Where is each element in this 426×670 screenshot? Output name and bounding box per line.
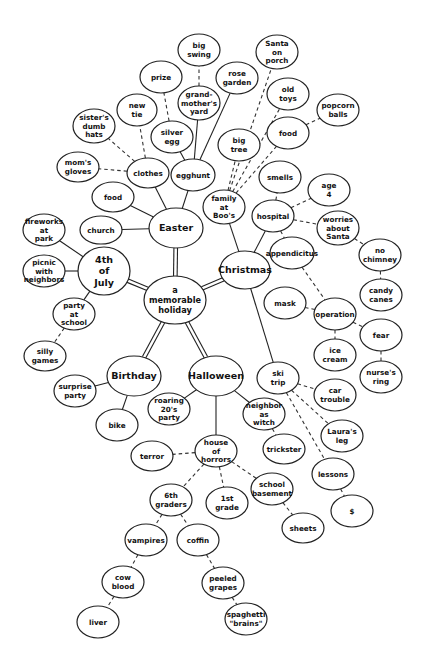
topic-bubbles: amemorableholidayEasterChristmas4thofJul… xyxy=(23,34,402,638)
bubble-terror: terror xyxy=(131,441,173,471)
bubble-house-horrors: houseofhorrors xyxy=(195,435,237,467)
bubble-label: school xyxy=(61,318,87,327)
bubble-label: hats xyxy=(85,130,103,139)
bubble-label: lessons xyxy=(318,470,348,479)
connector-dashed-sixth_graders-vampires xyxy=(155,514,162,525)
bubble-label: Boo's xyxy=(213,211,235,220)
bubble-label: graders xyxy=(155,500,186,509)
bubble-birthday: Birthday xyxy=(107,356,161,396)
bubble-label: Easter xyxy=(159,222,194,233)
bubble-label: terror xyxy=(140,452,164,461)
connector-solid-easter-clothes xyxy=(155,187,166,209)
bubble-egghunt: egghunt xyxy=(171,159,215,191)
bubble-label: memorable xyxy=(149,295,201,305)
bubble-label: basement xyxy=(252,489,293,498)
bubble-label: Birthday xyxy=(111,370,157,381)
bubble-label: egg xyxy=(164,137,179,146)
bubble-roaring20s: roaring20'sparty xyxy=(148,393,190,425)
bubble-label: food xyxy=(104,193,122,202)
bubble-label: cream xyxy=(322,355,347,364)
connector-dashed-coffin-peeled_grapes xyxy=(207,555,215,569)
connector-dashed-hospital-appendicitus xyxy=(281,231,285,238)
bubble-label: canes xyxy=(369,295,392,304)
bubble-label: food xyxy=(279,129,297,138)
connector-solid-christmas-hospital xyxy=(254,231,265,252)
bubble-label: tree xyxy=(231,145,248,154)
connector-dashed-ski_trip-car_trouble xyxy=(298,384,316,389)
connector-double-center-christmas xyxy=(201,278,222,287)
connector-double-center-july4 xyxy=(127,282,147,290)
bubble-label: 4th xyxy=(95,254,113,265)
bubble-big-swing: bigswing xyxy=(178,34,220,66)
bubble-halloween: Halloween xyxy=(188,356,244,396)
connector-solid-easter-egghunt xyxy=(182,191,188,209)
connector-solid-easter-church xyxy=(122,229,149,230)
bubble-worries-santa: worriesaboutSanta xyxy=(317,211,359,245)
connector-dashed-cow_blood-liver xyxy=(107,596,114,607)
bubble-no-chimney: nochimney xyxy=(359,239,401,271)
bubble-label: church xyxy=(87,226,114,235)
connector-dashed-party_school-silly_games xyxy=(54,328,64,342)
bubble-label: ring xyxy=(373,377,389,386)
bubble-liver: liver xyxy=(77,606,119,638)
bubble-first-grade: 1stgrade xyxy=(206,487,248,519)
bubble-label: blood xyxy=(112,582,135,591)
bubble-label: witch xyxy=(253,418,275,427)
bubble-coffin: coffin xyxy=(177,524,219,556)
bubble-food-e: food xyxy=(92,182,134,212)
connector-dashed-family_boos-big_tree xyxy=(228,161,235,191)
bubble-label: Halloween xyxy=(188,370,244,381)
bubble-label: holiday xyxy=(158,305,192,315)
bubble-label: July xyxy=(93,277,115,288)
bubble-label: egghunt xyxy=(176,171,211,180)
bubble-label: trip xyxy=(271,378,286,387)
bubble-label: "brains" xyxy=(230,619,263,628)
bubble-sheets: sheets xyxy=(282,513,324,543)
connector-dashed-clothes-moms_gloves xyxy=(99,169,127,171)
bubble-candy-canes: candycanes xyxy=(360,279,402,311)
connector-double-center-birthday xyxy=(142,321,161,356)
bubble-label: swing xyxy=(187,50,211,59)
bubble-sixth-graders: 6thgraders xyxy=(150,484,192,516)
connector-dashed-neighbor_witch-trickster xyxy=(272,429,276,435)
bubble-car-trouble: cartrouble xyxy=(314,379,356,411)
bubble-rose-garden: rosegarden xyxy=(216,62,258,94)
connector-solid-halloween-roaring20s xyxy=(184,390,196,398)
connector-dashed-hospital-smells xyxy=(276,193,277,200)
bubble-hospital: hospital xyxy=(252,200,294,232)
connector-solid-birthday-surprise_party xyxy=(95,382,109,385)
bubble-label: of xyxy=(99,265,111,276)
bubble-party-school: partyatschool xyxy=(53,298,95,330)
bubble-church: church xyxy=(80,216,122,244)
connector-dashed-house_horrors-sixth_graders xyxy=(183,464,204,487)
bubble-label: leg xyxy=(336,436,348,445)
connector-dashed-lessons-dollar xyxy=(341,489,345,496)
bubble-big-tree: bigtree xyxy=(218,129,260,161)
bubble-age4: age4 xyxy=(308,174,350,206)
bubble-label: yard xyxy=(190,107,208,116)
bubble-smells: smells xyxy=(259,161,301,193)
bubble-label: appendicitus xyxy=(266,249,318,258)
bubble-spaghetti-brains: spaghetti"brains" xyxy=(225,603,267,635)
bubble-neighbor-witch: neighboraswitch xyxy=(243,398,285,430)
bubble-label: $ xyxy=(349,507,354,516)
bubble-label: porch xyxy=(265,56,288,65)
connector-dashed-sixth_graders-coffin xyxy=(181,514,189,526)
bubble-fear: fear xyxy=(360,319,402,351)
connector-solid-egghunt-grandmothers_yard xyxy=(194,120,197,159)
bubble-label: prize xyxy=(151,73,171,82)
bubble-label: chimney xyxy=(363,255,397,264)
connector-dashed-peeled_grapes-spaghetti_brains xyxy=(232,597,237,604)
bubble-label: clothes xyxy=(133,169,162,178)
connector-dashed-house_horrors-first_grade xyxy=(219,467,223,487)
bubble-clothes: clothes xyxy=(127,158,169,188)
bubble-bike: bike xyxy=(96,409,138,441)
bubble-label: bike xyxy=(108,421,125,430)
bubble-moms-gloves: mom'sgloves xyxy=(57,152,99,182)
bubble-family-boos: familyatBoo's xyxy=(203,190,245,224)
bubble-label: 4 xyxy=(326,190,331,199)
connector-dashed-food_c-popcorn_balls xyxy=(306,118,320,124)
mind-map-canvas: amemorableholidayEasterChristmas4thofJul… xyxy=(0,0,426,670)
bubble-label: hospital xyxy=(257,212,290,221)
bubble-peeled-grapes: peeledgrapes xyxy=(202,567,244,599)
